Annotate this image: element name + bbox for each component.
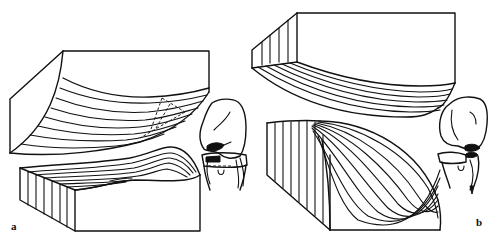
figure-illustration — [0, 0, 491, 241]
panel-b — [252, 13, 487, 230]
panel-b-lower-block — [267, 121, 441, 230]
panel-b-knee-sketch — [438, 97, 487, 194]
panel-label-a: a — [11, 221, 17, 232]
panel-a-knee-sketch — [200, 99, 247, 190]
panel-a-lower-block — [20, 147, 200, 231]
panel-label-b: b — [476, 217, 482, 228]
panel-b-upper-block — [252, 13, 455, 117]
panel-a-upper-block — [10, 51, 209, 155]
panel-a — [10, 51, 247, 231]
